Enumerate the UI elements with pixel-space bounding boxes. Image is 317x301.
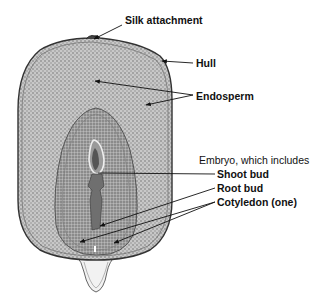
label-hull: Hull (196, 57, 216, 69)
label-endosperm: Endosperm (196, 90, 254, 102)
label-silk-attachment: Silk attachment (125, 14, 203, 26)
label-cotyledon: Cotyledon (one) (217, 196, 297, 208)
label-embryo: Embryo, which includes (199, 154, 309, 166)
label-shoot-bud: Shoot bud (217, 168, 269, 180)
silk-attachment-arrow (94, 25, 122, 39)
corn-kernel-diagram: Silk attachment Hull Endosperm Embryo, w… (0, 0, 317, 301)
kernel (18, 36, 172, 293)
label-root-bud: Root bud (217, 182, 263, 194)
hull-arrow (162, 61, 193, 63)
